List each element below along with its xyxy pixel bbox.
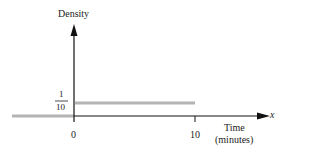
x-axis-arrow-icon <box>257 113 270 120</box>
x-axis-symbol: x <box>270 110 274 120</box>
y-axis-arrow-icon <box>71 24 78 36</box>
y-axis-label: Density <box>58 9 89 19</box>
y-tick-denominator: 10 <box>56 103 65 112</box>
x-tick-label-0: 0 <box>71 130 76 140</box>
y-tick-numerator: 1 <box>59 90 64 99</box>
x-axis-label-time: Time <box>224 123 245 133</box>
x-tick-label-10: 10 <box>190 130 200 140</box>
x-axis-label-units: (minutes) <box>215 135 253 145</box>
